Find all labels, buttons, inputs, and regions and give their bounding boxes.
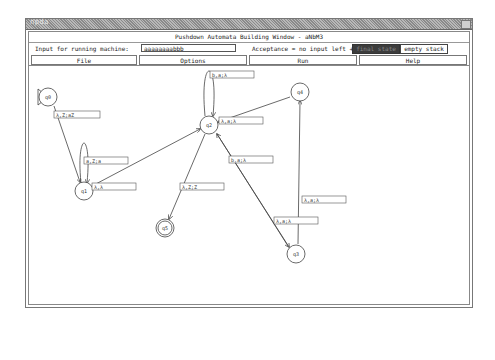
diagram-canvas[interactable]: q0 q1 q2 q3 q4 q5 λ,Z;aZ a,Z;a λ,λ b,a;λ… xyxy=(29,65,469,304)
menu-options[interactable]: Options xyxy=(139,55,247,65)
pda-building-panel: Pushdown Automata Building Window - aNbM… xyxy=(28,31,470,305)
menu-help[interactable]: Help xyxy=(359,55,467,65)
pda-diagram[interactable]: q0 q1 q2 q3 q4 q5 λ,Z;aZ a,Z;a λ,λ b,a;λ… xyxy=(29,66,469,304)
svg-text:λ,a;λ: λ,a;λ xyxy=(276,218,291,224)
menu-run[interactable]: Run xyxy=(249,55,357,65)
final-state-toggle[interactable]: final state xyxy=(352,44,400,54)
svg-text:λ,Z;aZ: λ,Z;aZ xyxy=(56,112,74,118)
svg-text:q3: q3 xyxy=(293,251,299,258)
npda-window: npda Pushdown Automata Building Window -… xyxy=(25,18,473,308)
input-label: Input for running machine: xyxy=(35,43,129,54)
states xyxy=(39,83,309,263)
window-app-name: npda xyxy=(30,18,49,26)
machine-input-field[interactable]: aaaaaaaabbb xyxy=(141,44,236,52)
svg-text:λ,Z;Z: λ,Z;Z xyxy=(182,184,197,190)
svg-text:q1: q1 xyxy=(81,188,87,195)
menu-bar: File Options Run Help xyxy=(29,55,469,64)
svg-text:q4: q4 xyxy=(297,89,303,96)
svg-text:b,a;λ: b,a;λ xyxy=(231,157,246,163)
window-titlebar[interactable]: npda xyxy=(26,19,472,30)
svg-text:λ,a;λ: λ,a;λ xyxy=(221,118,236,124)
svg-text:q0: q0 xyxy=(45,94,51,101)
svg-text:q2: q2 xyxy=(206,122,212,129)
empty-stack-toggle[interactable]: empty stack xyxy=(400,44,448,54)
input-row: Input for running machine: aaaaaaaabbb A… xyxy=(29,43,469,54)
svg-text:λ,a;λ: λ,a;λ xyxy=(304,197,319,203)
svg-text:λ,λ: λ,λ xyxy=(94,184,103,190)
menu-file[interactable]: File xyxy=(31,55,137,65)
acceptance-label: Acceptance = no input left + xyxy=(252,43,353,54)
window-maximize-button[interactable] xyxy=(461,20,471,29)
svg-text:a,Z;a: a,Z;a xyxy=(86,158,101,164)
svg-text:q5: q5 xyxy=(162,225,168,232)
window-heading: Pushdown Automata Building Window - aNbM… xyxy=(29,32,469,43)
svg-text:b,a;λ: b,a;λ xyxy=(212,72,227,78)
